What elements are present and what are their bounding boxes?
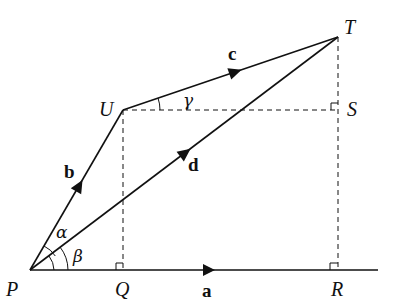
label-angle-alpha: α xyxy=(56,222,68,242)
label-point-p: P xyxy=(5,278,18,300)
label-point-u: U xyxy=(99,98,115,120)
label-point-t: T xyxy=(344,16,357,38)
right-angle-s xyxy=(331,103,338,110)
angle-arc-beta xyxy=(60,247,68,270)
diagram-svg: P Q R S T U a b c d α β γ xyxy=(0,0,394,306)
vector-diagram: P Q R S T U a b c d α β γ xyxy=(0,0,394,306)
angle-arc-gamma xyxy=(158,98,160,110)
arrow-head-a-icon xyxy=(203,264,215,276)
arrow-head-c-icon xyxy=(227,64,243,80)
label-angle-gamma: γ xyxy=(183,90,194,110)
label-point-r: R xyxy=(330,278,343,300)
label-point-s: S xyxy=(347,98,357,120)
label-angle-beta: β xyxy=(72,246,83,266)
label-vector-c: c xyxy=(228,43,236,64)
label-vector-a: a xyxy=(202,280,212,301)
label-point-q: Q xyxy=(115,278,130,300)
angle-arc-beta-inner xyxy=(49,256,54,270)
label-vector-b: b xyxy=(64,161,75,182)
right-angle-q xyxy=(116,263,123,270)
label-vector-d: d xyxy=(188,154,199,175)
right-angle-r xyxy=(330,263,338,270)
